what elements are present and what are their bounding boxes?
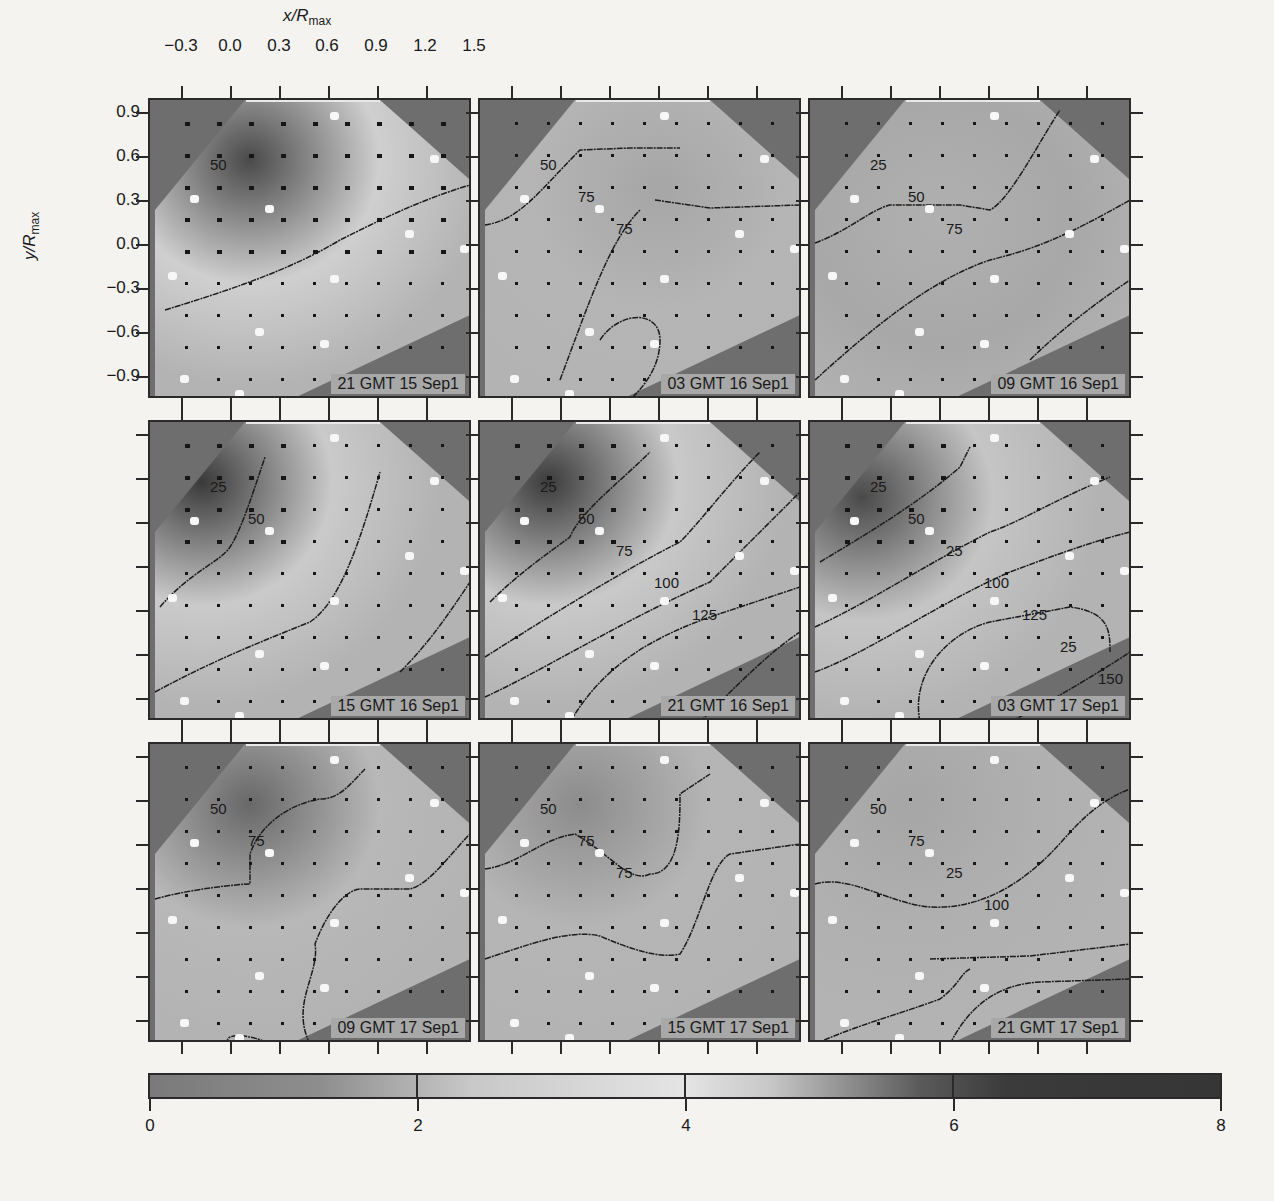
observation-marker: [510, 1019, 519, 1027]
wind-vector: [941, 1022, 944, 1025]
wind-vector: [217, 862, 220, 865]
wind-vector: [249, 154, 254, 158]
y-tick: [796, 156, 808, 158]
wind-vector: [771, 926, 774, 929]
map-panel: 50757515 GMT 17 Sep1: [478, 742, 801, 1042]
wind-vector: [579, 346, 582, 349]
wind-vector: [345, 830, 348, 833]
y-tick: [466, 376, 478, 378]
wind-vector: [185, 250, 190, 254]
wind-vector: [675, 798, 678, 801]
wind-vector: [409, 572, 412, 575]
colorbar: [148, 1073, 1222, 1099]
wind-vector: [941, 314, 944, 317]
x-tick: [658, 408, 660, 420]
observation-marker: [1090, 799, 1099, 807]
x-tick-label: 1.2: [413, 36, 437, 56]
wind-vector: [1005, 282, 1008, 285]
wind-vector: [1005, 926, 1008, 929]
wind-vector: [1037, 862, 1040, 865]
observation-marker: [660, 919, 669, 927]
x-tick: [609, 1042, 611, 1054]
wind-vector: [739, 990, 742, 993]
wind-vector: [409, 218, 414, 222]
wind-vector: [845, 958, 848, 961]
x-tick: [511, 408, 513, 420]
wind-vector: [345, 798, 348, 801]
wind-vector: [217, 894, 220, 897]
wind-vector: [249, 766, 252, 769]
contour-label: 50: [870, 800, 887, 817]
contour-label: 125: [1022, 606, 1047, 623]
wind-vector: [909, 476, 914, 480]
observation-marker: [180, 1019, 189, 1027]
observation-marker: [850, 195, 859, 203]
wind-vector: [1037, 250, 1040, 253]
wind-vector: [941, 798, 944, 801]
observation-marker: [565, 1034, 574, 1042]
wind-vector: [547, 444, 552, 448]
wind-vector: [643, 572, 646, 575]
y-tick: [796, 478, 808, 480]
wind-vector: [739, 476, 742, 479]
observation-marker: [828, 916, 837, 924]
wind-vector: [643, 250, 646, 253]
map-field: 255075: [810, 100, 1131, 398]
y-tick: [136, 244, 148, 246]
x-tick: [756, 730, 758, 742]
wind-vector: [579, 636, 582, 639]
wind-vector: [377, 508, 380, 511]
wind-vector: [675, 604, 678, 607]
wind-vector: [313, 250, 318, 254]
wind-vector: [409, 444, 412, 447]
wind-vector: [845, 926, 848, 929]
wind-vector: [249, 540, 254, 544]
y-tick: [136, 698, 148, 700]
observation-marker: [520, 195, 529, 203]
wind-vector: [707, 444, 710, 447]
wind-vector: [313, 444, 316, 447]
wind-vector: [1101, 540, 1104, 543]
wind-vector: [249, 668, 252, 671]
y-tick: [796, 200, 808, 202]
wind-vector: [1069, 668, 1072, 671]
wind-vector: [941, 476, 946, 480]
wind-vector: [1101, 990, 1104, 993]
wind-vector: [547, 958, 550, 961]
wind-vector: [281, 540, 286, 544]
y-tick: [466, 112, 478, 114]
wind-vector: [345, 604, 348, 607]
wind-vector: [579, 122, 582, 125]
wind-vector: [377, 444, 380, 447]
observation-marker: [265, 205, 274, 213]
wind-vector: [281, 894, 284, 897]
wind-vector: [515, 958, 518, 961]
wind-vector: [249, 250, 254, 254]
observation-marker: [980, 662, 989, 670]
wind-vector: [877, 122, 880, 125]
wind-vector: [217, 636, 220, 639]
wind-vector: [611, 572, 614, 575]
x-tick: [230, 408, 232, 420]
observation-marker: [565, 390, 574, 398]
wind-vector: [973, 894, 976, 897]
wind-vector: [611, 250, 614, 253]
wind-vector: [1101, 282, 1104, 285]
wind-vector: [409, 926, 412, 929]
wind-vector: [643, 700, 646, 703]
wind-vector: [441, 604, 444, 607]
colorbar-tick: [953, 1099, 955, 1111]
wind-vector: [845, 766, 848, 769]
wind-vector: [675, 926, 678, 929]
y-tick: [1131, 332, 1143, 334]
observation-marker: [430, 477, 439, 485]
wind-vector: [643, 508, 646, 511]
wind-vector: [1069, 926, 1072, 929]
wind-vector: [1005, 958, 1008, 961]
wind-vector: [771, 346, 774, 349]
wind-vector: [771, 218, 774, 221]
wind-vector: [675, 314, 678, 317]
wind-vector: [973, 314, 976, 317]
wind-vector: [771, 894, 774, 897]
panel-time-label: 03 GMT 16 Sep1: [661, 374, 795, 394]
